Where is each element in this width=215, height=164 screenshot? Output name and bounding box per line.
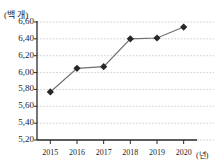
- line-chart: · · · · · · · · · · · · · · · · · · · · …: [0, 0, 215, 164]
- data-point-marker: 2020: 6,54: [180, 23, 187, 30]
- data-series-line: [50, 27, 183, 92]
- plot-area: 2015: 5,772016: 6,052017: 6,072018: 6,40…: [0, 0, 215, 164]
- data-point-marker: 2019: 6,41: [153, 34, 160, 41]
- x-axis-unit-label: (년): [196, 149, 208, 160]
